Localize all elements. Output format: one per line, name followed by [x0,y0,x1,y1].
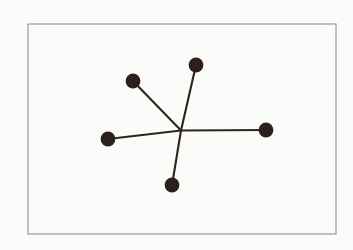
node-bottom [165,178,180,193]
figure-container [0,0,353,250]
graph-diagram [0,0,353,250]
node-upper-left [126,74,141,89]
node-right [259,123,274,138]
node-left [101,132,116,147]
edge-right [181,130,266,131]
node-top [189,58,204,73]
